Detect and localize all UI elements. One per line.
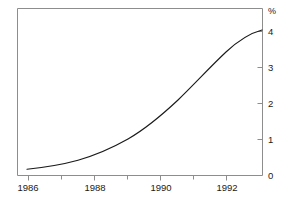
y-tick-label-4: 4 [268,26,273,37]
y-tick-label-2: 2 [268,98,273,109]
line-chart: % 4 3 2 1 0 1986 1988 1990 1992 [0,0,294,207]
x-axis-ticks [29,176,227,181]
y-axis-ticks [258,32,263,140]
chart-page: % 4 3 2 1 0 1986 1988 1990 1992 [0,0,294,207]
plot-frame [18,9,263,176]
y-tick-label-3: 3 [268,62,273,73]
y-tick-label-1: 1 [268,134,273,145]
x-tick-label-1988: 1988 [84,182,105,193]
data-curve [27,30,262,169]
x-tick-label-1990: 1990 [150,182,171,193]
y-axis-unit-label: % [268,6,276,16]
x-tick-label-1992: 1992 [216,182,237,193]
x-tick-label-1986: 1986 [17,182,38,193]
y-tick-label-0: 0 [268,170,273,181]
